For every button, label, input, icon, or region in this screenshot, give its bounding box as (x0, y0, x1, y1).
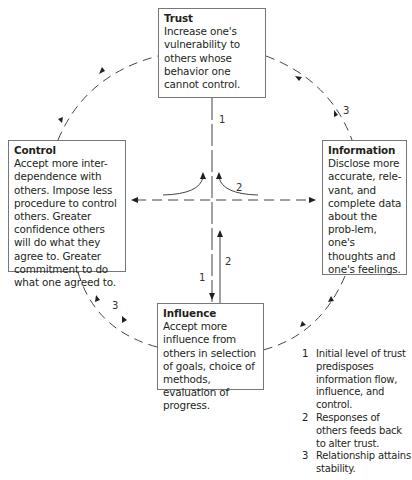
label-trust-down: 1 (219, 114, 225, 125)
control-body: Accept more inter-dependence with others… (14, 157, 121, 289)
label-cycle-right: 3 (343, 105, 349, 116)
legend: 1 Initial level of trust predisposes inf… (300, 348, 412, 476)
label-cycle-left: 3 (112, 300, 118, 311)
legend-num: 2 (302, 412, 308, 425)
arrowhead (300, 321, 306, 327)
trust-box: Trust Increase one's vulnerability to ot… (158, 8, 266, 98)
cycle-arc-control-to-trust (58, 56, 158, 140)
legend-num: 1 (302, 348, 308, 361)
information-box: Information Disclose more accurate, rele… (322, 140, 407, 275)
label-influence-up: 2 (225, 256, 231, 267)
arrowhead (295, 76, 302, 81)
influence-body: Accept more influence from others in sel… (163, 320, 259, 412)
label-feedback-curve: 2 (236, 182, 242, 193)
influence-title: Influence (163, 307, 259, 320)
legend-num: 3 (302, 450, 308, 463)
arrowhead (58, 117, 63, 123)
influence-box: Influence Accept more influence from oth… (157, 303, 264, 390)
cycle-arc-trust-to-information (266, 56, 352, 140)
label-influence-down: 1 (199, 272, 205, 283)
arrowhead (122, 316, 127, 323)
cycle-arc-information-to-influence (263, 276, 345, 350)
trust-body: Increase one's vulnerability to others w… (164, 25, 261, 91)
arrowhead (95, 295, 100, 302)
control-title: Control (14, 144, 121, 157)
information-title: Information (328, 144, 402, 157)
legend-text: Responses of others feeds back to alter … (316, 412, 402, 449)
legend-item-1: 1 Initial level of trust predisposes inf… (300, 348, 412, 412)
legend-text: Initial level of trust predisposes infor… (316, 348, 406, 410)
legend-item-2: 2 Responses of others feeds back to alte… (300, 412, 412, 450)
control-box: Control Accept more inter-dependence wit… (8, 140, 126, 272)
information-body: Disclose more accurate, rele-vant, and c… (328, 157, 402, 276)
trust-title: Trust (164, 12, 261, 25)
arrowhead (99, 67, 105, 74)
legend-text: Relationship attains stability. (316, 450, 411, 474)
arrowhead (328, 296, 334, 302)
legend-item-3: 3 Relationship attains stability. (300, 450, 412, 476)
